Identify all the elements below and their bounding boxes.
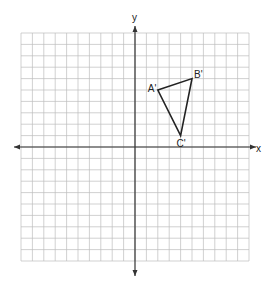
- x-axis-label: x: [256, 143, 261, 154]
- triangle: [158, 79, 192, 136]
- y-axis-label: y: [132, 12, 137, 23]
- vertex-label: A': [148, 83, 157, 94]
- y-axis-down-arrow-icon: [133, 270, 138, 276]
- coordinate-plane: A'B'C': [0, 0, 274, 289]
- y-axis-up-arrow-icon: [133, 26, 138, 32]
- x-axis-left-arrow-icon: [14, 145, 20, 150]
- vertex-label: C': [177, 138, 186, 149]
- vertex-label: B': [194, 69, 203, 80]
